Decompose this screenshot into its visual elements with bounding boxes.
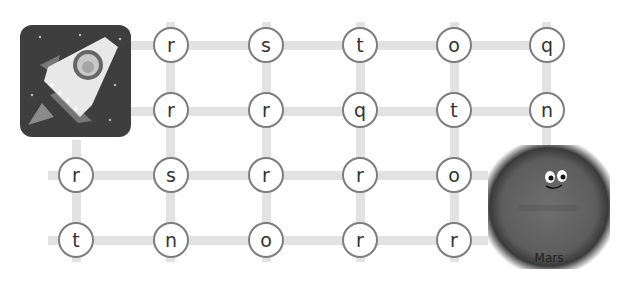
letter-node[interactable]: r	[342, 222, 378, 258]
letter-node[interactable]: r	[153, 92, 189, 128]
letter-node[interactable]: r	[342, 157, 378, 193]
letter-node[interactable]: s	[153, 157, 189, 193]
letter-node[interactable]: r	[153, 27, 189, 63]
letter-node[interactable]: n	[529, 92, 565, 128]
rocket-icon	[20, 25, 131, 137]
letter-node[interactable]: q	[342, 92, 378, 128]
letter-node[interactable]: o	[436, 27, 472, 63]
letter-node[interactable]: t	[436, 92, 472, 128]
start-rocket-tile	[20, 25, 131, 137]
track-row-1	[130, 41, 550, 50]
letter-node[interactable]: o	[248, 222, 284, 258]
letter-node[interactable]: r	[248, 157, 284, 193]
letter-node[interactable]: s	[248, 27, 284, 63]
letter-node[interactable]: o	[436, 157, 472, 193]
letter-node[interactable]: r	[436, 222, 472, 258]
letter-node[interactable]: r	[248, 92, 284, 128]
track-row-2	[130, 107, 550, 116]
letter-node[interactable]: r	[58, 157, 94, 193]
letter-node[interactable]: t	[342, 27, 378, 63]
goal-mars-tile: Mars	[488, 145, 610, 269]
letter-node[interactable]: t	[58, 222, 94, 258]
letter-node[interactable]: n	[153, 222, 189, 258]
letter-node[interactable]: q	[529, 27, 565, 63]
maze-board: Mars r s t o q r r q t n r s r r o t n o…	[0, 0, 622, 285]
mars-label: Mars	[488, 251, 610, 265]
